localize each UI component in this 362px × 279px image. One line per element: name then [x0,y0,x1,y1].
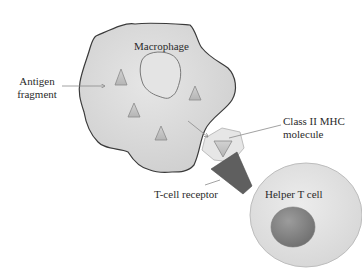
helper-t-cell [250,163,362,267]
antigen-fragment-label: Antigen fragment [14,75,60,101]
antigen-label-line2: fragment [14,88,60,101]
antigen-label-line1: Antigen [14,75,60,88]
mhc-label-line2: molecule [283,128,345,141]
helper-t-cell-nucleus [271,207,315,247]
mhc-molecule-label: Class II MHC molecule [283,115,345,141]
t-cell-receptor-label: T-cell receptor [154,188,218,201]
receptor-leader-line [205,180,220,185]
macrophage-label: Macrophage [134,40,189,53]
mhc-label-line1: Class II MHC [283,115,345,128]
helper-t-cell-label: Helper T cell [265,188,323,201]
